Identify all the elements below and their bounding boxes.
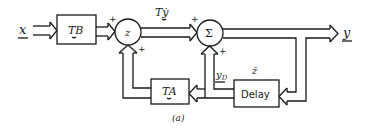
z-junction: z bbox=[115, 19, 141, 45]
input-x-label: x bbox=[19, 22, 27, 37]
tb-to-z-arrow bbox=[96, 23, 115, 40]
into-delay-arrowhead bbox=[279, 88, 287, 105]
sum-plus-top: + bbox=[191, 14, 199, 24]
z-plus-bottom: + bbox=[138, 44, 146, 54]
figure-caption: (a) bbox=[172, 113, 185, 123]
z-bar-label: z̄ bbox=[251, 65, 258, 76]
sum-junction: Σ bbox=[197, 20, 223, 46]
delay-label: Delay bbox=[241, 89, 270, 100]
z-junction-label: z bbox=[124, 27, 131, 38]
tb-block: TB bbox=[57, 15, 96, 44]
tb-label: TB bbox=[68, 24, 83, 37]
sum-junction-label: Σ bbox=[205, 27, 213, 40]
t-ydot-label: Tẏ bbox=[155, 6, 169, 19]
input-arrow bbox=[33, 22, 57, 39]
sum-plus-bottom: + bbox=[219, 46, 227, 56]
block-diagram: x TB + z + Tẏ + Σ + bbox=[0, 0, 369, 134]
ta-to-z-arrow bbox=[119, 45, 151, 98]
t-ydot-tilde bbox=[162, 19, 166, 20]
z-to-sum-arrow bbox=[141, 24, 197, 41]
y-d-label: yD bbox=[215, 69, 228, 82]
output-y-label: y bbox=[342, 25, 351, 40]
delay-block: Delay bbox=[234, 80, 279, 107]
z-plus-top: + bbox=[109, 14, 117, 24]
ta-label: TA bbox=[162, 85, 177, 98]
ta-block: TA bbox=[151, 79, 189, 104]
